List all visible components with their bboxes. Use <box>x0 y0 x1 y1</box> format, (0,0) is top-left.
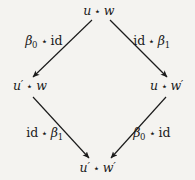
node-right: u⋆w′ <box>150 80 184 93</box>
identity-label: id <box>133 33 145 48</box>
beta-subscript: 0 <box>32 39 38 49</box>
arrow-upper-left <box>33 20 92 77</box>
beta-subscript: 1 <box>165 39 171 49</box>
beta-symbol: β <box>158 33 165 48</box>
node-top-base2: w <box>104 3 115 18</box>
node-right-base2: w <box>170 78 181 93</box>
arrow-upper-right <box>110 20 167 77</box>
beta-symbol: β <box>51 125 58 140</box>
star-icon: ⋆ <box>24 79 36 92</box>
star-icon: ⋆ <box>39 126 51 139</box>
identity-label: id <box>158 125 170 140</box>
beta-subscript: 0 <box>140 131 146 141</box>
star-icon: ⋆ <box>91 161 103 174</box>
star-icon: ⋆ <box>38 34 50 47</box>
star-icon: ⋆ <box>146 126 158 139</box>
node-bottom-prime2: ′ <box>113 159 116 172</box>
edge-label-lower-right: β0⋆id <box>133 127 171 140</box>
star-icon: ⋆ <box>146 34 158 47</box>
commutative-diagram: u⋆w u′⋆w u⋆w′ u′⋆w′ β0⋆id id⋆β1 id⋆β1 β0… <box>0 0 195 180</box>
node-bottom-base2: w <box>103 160 114 175</box>
node-right-prime2: ′ <box>181 77 184 90</box>
beta-subscript: 1 <box>58 131 64 141</box>
edge-label-upper-right: id⋆β1 <box>133 35 171 48</box>
star-icon: ⋆ <box>158 79 170 92</box>
node-top: u⋆w <box>83 5 114 18</box>
node-left-base2: w <box>36 78 47 93</box>
identity-label: id <box>26 125 38 140</box>
edge-label-lower-left: id⋆β1 <box>26 127 64 140</box>
star-icon: ⋆ <box>92 4 104 17</box>
identity-label: id <box>50 33 62 48</box>
edge-label-upper-left: β0⋆id <box>25 35 63 48</box>
node-bottom: u′⋆w′ <box>80 162 117 175</box>
node-left: u′⋆w <box>13 80 47 93</box>
